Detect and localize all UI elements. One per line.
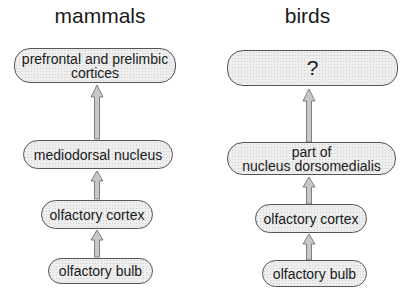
arrow-up-icon [90,84,104,140]
box-olfactory-bulb-mammals: olfactory bulb [48,258,153,284]
mammals-title: mammals [40,4,160,28]
birds-title: birds [250,4,365,28]
box-label: mediodorsal nucleus [34,148,162,162]
box-prefrontal-prelimbic: prefrontal and prelimbic cortices [14,48,176,83]
box-olfactory-bulb-birds: olfactory bulb [262,260,367,287]
box-mediodorsal-nucleus: mediodorsal nucleus [23,140,173,169]
box-label: prefrontal and prelimbic cortices [22,52,168,80]
box-olfactory-cortex-mammals: olfactory cortex [41,200,153,229]
arrow-up-icon [302,233,316,261]
box-olfactory-cortex-birds: olfactory cortex [255,204,367,233]
arrow-up-icon [90,170,104,200]
box-label: olfactory cortex [264,212,359,226]
box-label: olfactory cortex [50,208,145,222]
arrow-up-icon [302,176,316,205]
arrow-up-icon [302,88,316,143]
box-label: olfactory bulb [59,264,142,278]
arrow-up-icon [90,229,104,258]
box-nucleus-dorsomedialis: part of nucleus dorsomedialis [227,142,396,175]
box-label: ? [307,61,319,75]
box-label: part of nucleus dorsomedialis [242,145,381,173]
box-unknown: ? [227,50,398,86]
box-label: olfactory bulb [273,267,356,281]
